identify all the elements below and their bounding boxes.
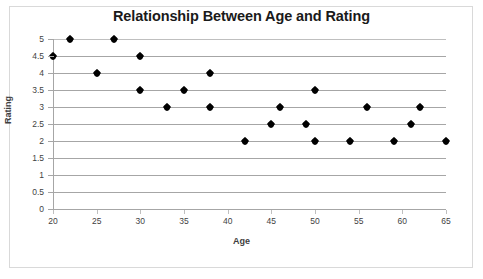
y-axis-tick-label: 0 xyxy=(8,204,44,214)
data-point xyxy=(311,137,319,145)
data-point xyxy=(206,69,214,77)
x-axis-tick-label: 65 xyxy=(431,216,461,226)
y-axis-tick xyxy=(48,158,54,159)
y-axis-tick-label: 3.5 xyxy=(8,85,44,95)
data-point xyxy=(407,120,415,128)
data-point xyxy=(363,103,371,111)
y-axis-tick-label: 5 xyxy=(8,34,44,44)
y-axis-tick xyxy=(48,107,54,108)
x-axis-tick-label: 45 xyxy=(256,216,286,226)
gridline-y xyxy=(53,192,446,193)
chart-title: Relationship Between Age and Rating xyxy=(0,8,483,24)
data-point xyxy=(180,86,188,94)
y-axis-tick-label: 2.5 xyxy=(8,119,44,129)
x-axis-tick xyxy=(315,210,316,214)
x-axis-tick-label: 40 xyxy=(213,216,243,226)
x-axis-tick xyxy=(402,210,403,214)
data-point xyxy=(162,103,170,111)
x-axis-tick-label: 25 xyxy=(82,216,112,226)
y-axis-tick xyxy=(48,90,54,91)
data-point xyxy=(241,137,249,145)
y-axis-tick-label: 1.5 xyxy=(8,153,44,163)
y-axis-tick-label: 2 xyxy=(8,136,44,146)
gridline-y xyxy=(53,158,446,159)
data-point xyxy=(416,103,424,111)
data-point xyxy=(136,86,144,94)
data-point xyxy=(346,137,354,145)
gridline-y xyxy=(53,209,446,210)
y-axis-tick-label: 4 xyxy=(8,68,44,78)
gridline-y xyxy=(53,107,446,108)
x-axis-tick xyxy=(140,210,141,214)
y-axis-tick-label: 3 xyxy=(8,102,44,112)
y-axis-tick-label: 1 xyxy=(8,170,44,180)
x-axis-tick-label: 55 xyxy=(344,216,374,226)
data-point xyxy=(302,120,310,128)
x-axis-tick-label: 35 xyxy=(169,216,199,226)
data-point xyxy=(267,120,275,128)
x-axis-tick xyxy=(228,210,229,214)
x-axis-tick xyxy=(184,210,185,214)
x-axis-tick-label: 60 xyxy=(387,216,417,226)
x-axis-title: Age xyxy=(0,236,483,246)
x-axis-tick-label: 30 xyxy=(125,216,155,226)
y-axis-tick xyxy=(48,39,54,40)
scatter-plot-area xyxy=(53,39,446,209)
y-axis-tick-label: 0.5 xyxy=(8,187,44,197)
y-axis-tick xyxy=(48,124,54,125)
x-axis-tick xyxy=(271,210,272,214)
gridline-y xyxy=(53,124,446,125)
x-axis-tick xyxy=(97,210,98,214)
data-point xyxy=(311,86,319,94)
gridline-y xyxy=(53,90,446,91)
y-axis-tick xyxy=(48,73,54,74)
y-axis-tick xyxy=(48,141,54,142)
x-axis-tick xyxy=(359,210,360,214)
gridline-y xyxy=(53,73,446,74)
y-axis-tick-label: 4.5 xyxy=(8,51,44,61)
gridline-y xyxy=(53,175,446,176)
gridline-y xyxy=(53,141,446,142)
y-axis-tick xyxy=(48,56,54,57)
data-point xyxy=(389,137,397,145)
data-point xyxy=(276,103,284,111)
y-axis-tick xyxy=(48,192,54,193)
x-axis-tick-label: 20 xyxy=(38,216,68,226)
x-axis-tick xyxy=(53,210,54,214)
x-axis-tick xyxy=(446,210,447,214)
data-point xyxy=(92,69,100,77)
data-point xyxy=(136,52,144,60)
gridline-y xyxy=(53,56,446,57)
y-axis-tick xyxy=(48,175,54,176)
data-point xyxy=(206,103,214,111)
x-axis-tick-label: 50 xyxy=(300,216,330,226)
